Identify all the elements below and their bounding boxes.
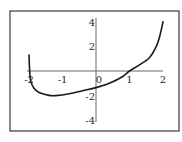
y-tick-label: -2 bbox=[85, 91, 95, 102]
y-tick-labels: -4-224 bbox=[85, 17, 95, 126]
x-tick-label: 2 bbox=[160, 74, 166, 85]
x-tick-labels: -2-1012 bbox=[24, 74, 166, 85]
y-tick-label: 2 bbox=[89, 41, 95, 52]
x-tick-label: -2 bbox=[24, 74, 34, 85]
x-tick-label: 1 bbox=[126, 74, 132, 85]
x-tick-label: -1 bbox=[58, 74, 68, 85]
y-tick-label: -4 bbox=[85, 115, 95, 126]
y-tick-label: 4 bbox=[89, 17, 95, 28]
x-tick-label: 0 bbox=[96, 74, 102, 85]
line-chart: -2-1012 -4-224 bbox=[0, 0, 182, 142]
